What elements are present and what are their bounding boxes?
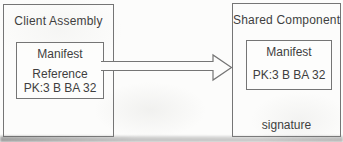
shared-manifest-box: Manifest PK:3 B BA 32 bbox=[246, 40, 332, 90]
diagram-canvas: Client Assembly Manifest Reference PK:3 … bbox=[0, 0, 343, 142]
shared-component-title: Shared Component bbox=[233, 13, 340, 27]
client-assembly-box: Client Assembly Manifest Reference PK:3 … bbox=[3, 4, 114, 137]
shared-component-box: Shared Component Manifest PK:3 B BA 32 s… bbox=[232, 3, 341, 137]
client-manifest-box: Manifest Reference PK:3 B BA 32 bbox=[16, 42, 104, 99]
client-manifest-title: Manifest bbox=[17, 47, 103, 61]
page-scan-shadow bbox=[0, 136, 343, 142]
client-manifest-reference-label: Reference bbox=[17, 68, 103, 81]
signature-label: signature bbox=[233, 118, 340, 132]
client-manifest-public-key-token: PK:3 B BA 32 bbox=[17, 81, 103, 95]
shared-manifest-public-key-token: PK:3 B BA 32 bbox=[247, 68, 331, 82]
shared-manifest-title: Manifest bbox=[247, 45, 331, 59]
client-assembly-title: Client Assembly bbox=[4, 14, 113, 28]
